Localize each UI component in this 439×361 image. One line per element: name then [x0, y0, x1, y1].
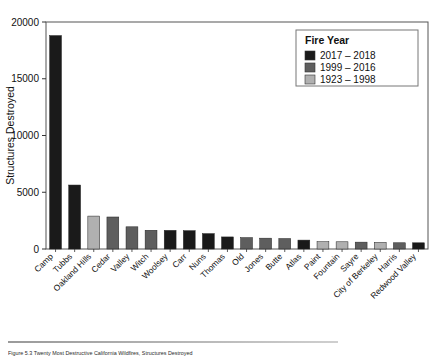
y-tick-label: 15000: [11, 73, 39, 84]
y-axis-title: Structures Destroyed: [4, 86, 16, 185]
legend-label: 2017 – 2018: [320, 50, 376, 61]
bar: [183, 231, 195, 249]
bar: [374, 242, 386, 249]
bar: [164, 230, 176, 249]
bar: [88, 216, 100, 249]
bar: [336, 242, 348, 249]
bar: [107, 217, 119, 249]
bar: [69, 185, 81, 249]
legend-title: Fire Year: [305, 34, 349, 46]
bar: [393, 243, 405, 249]
legend-label: 1923 – 1998: [320, 74, 376, 85]
legend-label: 1999 – 2016: [320, 62, 376, 73]
bar: [241, 238, 253, 249]
bar: [317, 242, 329, 249]
bar: [50, 36, 62, 249]
caption-divider: [8, 341, 338, 343]
bar: [279, 239, 291, 249]
bar: [202, 234, 214, 249]
bar: [298, 240, 310, 249]
bar: [355, 242, 367, 249]
y-tick-label: 20000: [11, 17, 39, 28]
y-tick-label: 5000: [17, 187, 40, 198]
legend-swatch: [305, 51, 315, 60]
y-tick-label: 0: [33, 244, 39, 255]
y-axis-label: Structures Destroyed: [4, 86, 16, 185]
figure-caption: Figure 5.3 Twenty Most Destructive Calif…: [8, 350, 428, 357]
bar: [145, 230, 157, 249]
bar: [260, 238, 272, 249]
legend: Fire Year2017 – 20181999 – 20161923 – 19…: [296, 30, 418, 86]
legend-swatch: [305, 63, 315, 72]
wildfire-bar-chart: 05000100001500020000 Structures Destroye…: [0, 0, 439, 361]
bar: [222, 237, 234, 249]
bar: [126, 227, 138, 249]
bar: [413, 243, 425, 249]
legend-swatch: [305, 75, 315, 84]
